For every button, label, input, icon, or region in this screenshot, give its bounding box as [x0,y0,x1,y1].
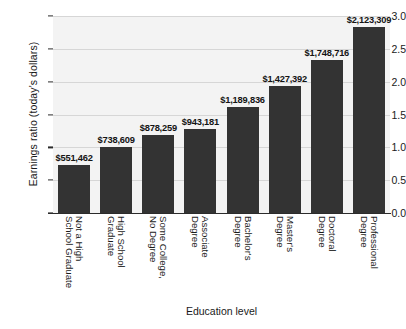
bar-value-label: $878,259 [140,123,177,133]
x-axis-category-label: AssociateDegree [190,216,211,258]
bar-value-label: $1,748,716 [305,48,350,58]
x-label-slot: Some College,No Degree [137,216,179,300]
x-axis-category-label-line: High School [116,216,126,268]
bar-value-label: $1,189,836 [220,95,265,105]
bar-value-label: $1,427,392 [262,74,307,84]
x-label-slot: ProfessionalDegree [348,216,390,300]
bar[interactable] [227,107,259,213]
x-axis-category-label-line: Not a High [74,216,84,288]
x-axis-category-label-line: Some College, [158,216,168,279]
bar[interactable] [353,27,385,213]
x-label-slot: AssociateDegree [179,216,221,300]
bar[interactable] [142,135,174,213]
x-label-slot: Master'sDegree [264,216,306,300]
x-axis-category-label-line: No Degree [148,216,158,279]
bar-slot: $943,181 [179,16,221,213]
x-axis-category-label-line: Degree [232,216,242,261]
bar-slot: $1,189,836 [222,16,264,213]
x-axis-category-label-line: Degree [359,216,369,269]
bar-slot: $2,123,309 [348,16,390,213]
bar-value-label: $738,609 [98,135,135,145]
x-axis-category-label: High SchoolGraduate [106,216,127,268]
bar[interactable] [184,129,216,213]
x-axis-category-label-line: Master's [285,216,295,252]
x-axis-category-label: Bachelor'sDegree [232,216,253,261]
x-label-slot: Not a HighSchool Graduate [53,216,95,300]
bar-series: $551,462$738,609$878,259$943,181$1,189,8… [53,16,390,213]
x-label-slot: High SchoolGraduate [95,216,137,300]
x-axis-category-label-line: Bachelor's [243,216,253,261]
bar-value-label: $943,181 [182,117,219,127]
x-axis-category-label-line: Degree [316,216,326,252]
bar-value-label: $551,462 [55,153,92,163]
bar-slot: $551,462 [53,16,95,213]
bar[interactable] [269,86,301,213]
x-axis-category-label-line: Professional [369,216,379,269]
x-label-slot: DoctoralDegree [306,216,348,300]
bar-slot: $1,427,392 [264,16,306,213]
x-axis-title: Education level [53,305,390,317]
x-label-slot: Bachelor'sDegree [222,216,264,300]
x-axis-category-label-line: Associate [200,216,210,258]
x-axis-category-label-line: Degree [190,216,200,258]
bar[interactable] [100,147,132,213]
bar-value-label: $2,123,309 [347,15,392,25]
x-axis-category-label-line: Graduate [106,216,116,268]
earnings-ratio-bar-chart: Earnings ratio (today's dollars) 0.00.51… [0,0,406,329]
x-axis-category-label-line: Doctoral [327,216,337,252]
bar[interactable] [58,165,90,213]
x-axis-category-label: Master'sDegree [274,216,295,252]
x-axis-line [48,213,391,214]
x-axis-category-label: ProfessionalDegree [359,216,380,269]
x-axis-category-label: Some College,No Degree [148,216,169,279]
bar[interactable] [311,60,343,213]
bar-slot: $738,609 [95,16,137,213]
x-axis-category-label: DoctoralDegree [316,216,337,252]
bar-slot: $878,259 [137,16,179,213]
x-axis-category-label: Not a HighSchool Graduate [64,216,85,288]
x-axis-category-labels: Not a HighSchool GraduateHigh SchoolGrad… [53,216,390,300]
y-axis-title: Earnings ratio (today's dollars) [27,9,39,219]
x-axis-category-label-line: Degree [274,216,284,252]
x-axis-category-label-line: School Graduate [64,216,74,288]
bar-slot: $1,748,716 [306,16,348,213]
